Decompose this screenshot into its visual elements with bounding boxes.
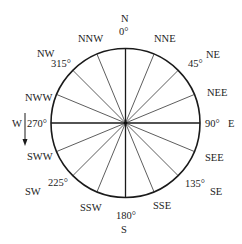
label-NE: NE <box>206 49 220 60</box>
label-NNE: NNE <box>154 33 176 44</box>
spoke-SE <box>126 123 179 176</box>
spoke-SW <box>73 123 126 176</box>
label-N: N <box>121 13 129 24</box>
center-hub <box>124 121 128 125</box>
label-SSE: SSE <box>153 200 171 211</box>
label-SW: SW <box>25 186 41 197</box>
label-NEE: NEE <box>207 87 227 98</box>
compass-rose-diagram: N 0° NNE NE 45° NEE 90° E SEE 135° SE SS… <box>0 0 242 244</box>
label-deg-225: 225° <box>48 177 68 188</box>
spoke-NW <box>73 70 126 123</box>
label-deg-0: 0° <box>119 26 128 37</box>
label-NWW: NWW <box>25 92 52 103</box>
label-SE: SE <box>210 186 222 197</box>
label-W: W <box>12 118 22 129</box>
label-SEE: SEE <box>205 152 224 163</box>
label-deg-45: 45° <box>188 58 203 69</box>
label-E: E <box>228 118 234 129</box>
label-SWW: SWW <box>27 151 53 162</box>
label-S: S <box>121 224 127 235</box>
label-deg-315: 315° <box>51 58 71 69</box>
label-deg-270: 270° <box>27 118 47 129</box>
label-deg-90: 90° <box>205 118 220 129</box>
label-deg-135: 135° <box>185 178 205 189</box>
label-NNW: NNW <box>78 33 103 44</box>
label-deg-180: 180° <box>116 210 136 221</box>
spoke-NE <box>126 70 179 123</box>
label-SSW: SSW <box>80 202 102 213</box>
label-NW: NW <box>37 48 55 59</box>
